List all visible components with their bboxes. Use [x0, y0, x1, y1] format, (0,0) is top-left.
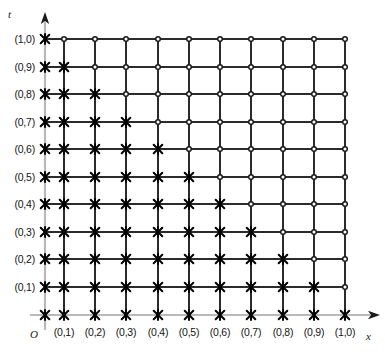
circle-marker	[187, 147, 192, 152]
circle-marker	[343, 175, 348, 180]
circle-marker	[281, 230, 286, 235]
circle-marker	[249, 120, 254, 125]
circle-marker	[312, 175, 317, 180]
circle-marker	[218, 37, 223, 42]
circle-marker	[312, 120, 317, 125]
grid-lines	[45, 39, 345, 315]
circle-marker	[343, 120, 348, 125]
y-tick-label: (0,3)	[14, 226, 35, 238]
x-tick-label: (0,3)	[116, 326, 137, 338]
y-tick-label: (0,7)	[14, 116, 35, 128]
origin-label: O	[30, 328, 38, 340]
circle-marker	[281, 65, 286, 70]
circle-marker	[249, 37, 254, 42]
circle-marker	[312, 147, 317, 152]
circle-marker	[156, 37, 161, 42]
circle-marker	[218, 92, 223, 97]
x-tick-label: (0,2)	[85, 326, 106, 338]
circle-marker	[187, 65, 192, 70]
circle-marker	[281, 147, 286, 152]
circle-marker	[312, 92, 317, 97]
circle-marker	[249, 65, 254, 70]
circle-marker	[218, 120, 223, 125]
y-tick-label: (0,9)	[14, 61, 35, 73]
circle-marker	[312, 230, 317, 235]
circle-marker	[343, 285, 348, 290]
y-tick-label: (1,0)	[14, 33, 35, 45]
x-tick-label: (1,0)	[335, 326, 356, 338]
circle-marker	[343, 92, 348, 97]
circle-marker	[312, 202, 317, 207]
circle-marker	[124, 65, 129, 70]
x-tick-label: (0,1)	[54, 326, 75, 338]
circle-marker	[312, 65, 317, 70]
mesh-figure: t x O (1,0)(0,9)(0,8)(0,7)(0,6)(0,5)(0,4…	[0, 0, 385, 355]
circle-marker	[249, 147, 254, 152]
circle-marker	[187, 37, 192, 42]
circle-marker	[249, 92, 254, 97]
circle-marker	[249, 202, 254, 207]
circle-marker	[281, 92, 286, 97]
circle-marker	[156, 65, 161, 70]
y-tick-label: (0,1)	[14, 281, 35, 293]
x-tick-label: (0,6)	[210, 326, 231, 338]
circle-marker	[249, 175, 254, 180]
circle-marker	[312, 37, 317, 42]
circle-marker	[93, 37, 98, 42]
circle-marker	[218, 65, 223, 70]
circle-marker	[62, 37, 67, 42]
mesh-canvas	[0, 0, 385, 355]
y-tick-label: (0,4)	[14, 198, 35, 210]
t-axis-label: t	[8, 8, 11, 20]
x-tick-label: (0,7)	[241, 326, 262, 338]
circle-marker	[343, 37, 348, 42]
circle-marker	[187, 120, 192, 125]
circle-marker	[156, 92, 161, 97]
circle-marker	[343, 230, 348, 235]
circle-marker	[343, 202, 348, 207]
x-tick-label: (0,8)	[273, 326, 294, 338]
circle-marker	[281, 175, 286, 180]
y-tick-label: (0,6)	[14, 143, 35, 155]
x-tick-label: (0,5)	[179, 326, 200, 338]
circle-marker	[281, 37, 286, 42]
y-tick-label: (0,5)	[14, 171, 35, 183]
y-tick-label: (0,2)	[14, 253, 35, 265]
x-tick-label: (0,4)	[148, 326, 169, 338]
circle-marker	[343, 147, 348, 152]
circle-marker	[281, 120, 286, 125]
circle-marker	[156, 120, 161, 125]
x-axis-label: x	[366, 330, 371, 342]
circle-marker	[124, 92, 129, 97]
circle-marker	[281, 202, 286, 207]
circle-marker	[343, 65, 348, 70]
circle-marker	[124, 37, 129, 42]
circle-marker	[218, 147, 223, 152]
circle-marker	[343, 257, 348, 262]
circle-marker	[93, 65, 98, 70]
circle-marker	[187, 92, 192, 97]
circle-marker	[312, 257, 317, 262]
circle-marker	[218, 175, 223, 180]
y-tick-label: (0,8)	[14, 88, 35, 100]
x-tick-label: (0,9)	[304, 326, 325, 338]
